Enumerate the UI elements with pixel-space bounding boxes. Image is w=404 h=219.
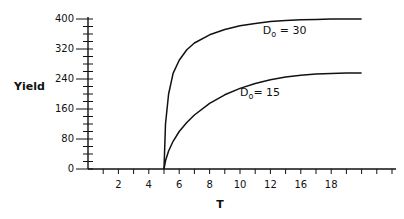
x-tick-label: 6 (176, 179, 182, 190)
y-tick-labels: 080160240320400 (55, 13, 74, 174)
annotation-d0-15: Do= 15 (240, 86, 280, 101)
y-axis-title: Yield (13, 80, 45, 93)
x-tick-label: 8 (206, 179, 212, 190)
y-tick-label: 160 (55, 103, 74, 114)
x-axis-title: T (216, 198, 224, 211)
x-tick-label: 10 (234, 179, 247, 190)
x-tick-label: 12 (264, 179, 277, 190)
x-tick-label: 4 (146, 179, 152, 190)
annotation-d0-30: Do = 30 (263, 24, 307, 39)
x-tick-labels: 246810121618 (115, 179, 337, 190)
curve-annotations: Do = 30Do= 15 (240, 24, 306, 101)
axes (76, 17, 396, 174)
y-tick-label: 0 (68, 163, 74, 174)
yield-chart: 080160240320400 246810121618 Yield T Do … (0, 0, 404, 219)
x-tick-label: 16 (294, 179, 307, 190)
x-tick-label: 2 (115, 179, 121, 190)
y-tick-label: 240 (55, 73, 74, 84)
y-tick-label: 400 (55, 13, 74, 24)
y-tick-label: 80 (61, 133, 74, 144)
y-tick-label: 320 (55, 43, 74, 54)
x-tick-label: 18 (325, 179, 338, 190)
